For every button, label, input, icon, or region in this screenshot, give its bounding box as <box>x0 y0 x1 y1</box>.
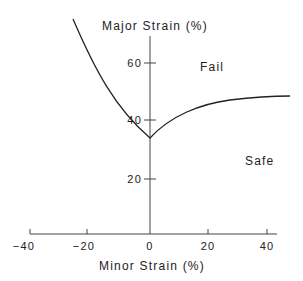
x-tick-label: −40 <box>13 240 35 252</box>
fail-region-label: Fail <box>200 60 224 74</box>
x-tick-label: 20 <box>201 240 216 252</box>
safe-region-label: Safe <box>245 154 275 168</box>
forming-limit-chart: −40 −20 0 20 40 60 40 20 Major Strain (%… <box>0 0 303 281</box>
y-tick-label: 20 <box>127 173 142 185</box>
x-axis-title: Minor Strain (%) <box>99 259 205 273</box>
y-tick-label: 60 <box>127 57 142 69</box>
forming-limit-curve <box>73 19 290 138</box>
x-tick-label: −20 <box>73 240 95 252</box>
x-tick-label: 40 <box>260 240 275 252</box>
y-axis-title: Major Strain (%) <box>102 19 208 33</box>
x-ticks <box>30 229 267 234</box>
x-tick-label: 0 <box>146 240 153 252</box>
